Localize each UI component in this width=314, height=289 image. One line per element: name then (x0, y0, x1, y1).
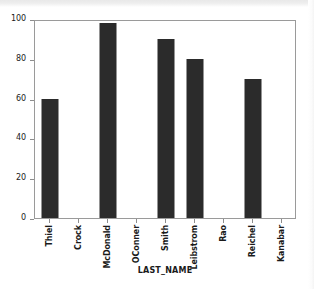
bar-slot (64, 21, 93, 218)
bar-slot (122, 21, 151, 218)
x-axis-tick-label: Kanabar (281, 225, 290, 262)
y-axis-tick-label: 80 (16, 54, 26, 63)
bar (41, 99, 58, 218)
bar (157, 39, 174, 218)
plot-area (34, 20, 296, 219)
x-axis-tick-mark (136, 219, 137, 223)
bar-slot (181, 21, 210, 218)
x-axis-tick-mark (194, 219, 195, 223)
bar-slot (93, 21, 122, 218)
x-axis-tick-label: McDonald (107, 225, 116, 269)
x-axis-tick-label: Smith (165, 225, 174, 251)
x-axis-tick-label: Thiel (49, 225, 58, 247)
x-axis-tick-label: Crock (78, 225, 87, 250)
y-axis-tick-label: 40 (16, 133, 26, 142)
bars-layer (35, 21, 295, 218)
bar-slot (239, 21, 268, 218)
y-axis-tick-label: 100 (11, 14, 26, 23)
bar-slot (268, 21, 297, 218)
y-axis-tick-mark (30, 219, 34, 220)
bar (187, 59, 204, 218)
x-axis-tick-label: Reichel (252, 225, 261, 257)
x-axis-tick-mark (165, 219, 166, 223)
bar (99, 23, 116, 218)
x-axis-tick-label: Rao (223, 225, 232, 242)
scan-artifact-right (308, 0, 314, 289)
x-axis-tick-label: OConner (136, 225, 145, 263)
x-axis-title: LAST_NAME (34, 266, 296, 275)
bar-slot (210, 21, 239, 218)
x-axis-tick-mark (223, 219, 224, 223)
y-axis-tick-label: 0 (21, 213, 26, 222)
x-axis-tick-label: Leibstrom (194, 225, 203, 269)
y-axis-tick-label: 20 (16, 173, 26, 182)
scan-artifact-top (0, 0, 314, 7)
x-axis-tick-mark (78, 219, 79, 223)
bar-slot (35, 21, 64, 218)
bar-slot (151, 21, 180, 218)
x-axis-tick-mark (252, 219, 253, 223)
bar-chart-figure: 020406080100 ThielCrockMcDonaldOConnerSm… (0, 0, 314, 289)
bar (245, 79, 262, 218)
x-axis-tick-mark (107, 219, 108, 223)
x-axis-tick-mark (281, 219, 282, 223)
x-axis-tick-mark (49, 219, 50, 223)
y-axis-tick-label: 60 (16, 94, 26, 103)
